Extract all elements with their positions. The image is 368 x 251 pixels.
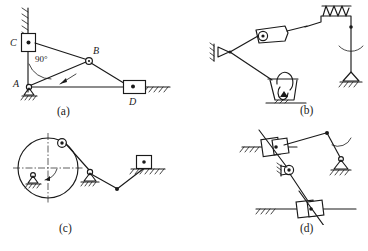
rotation-arrow bbox=[45, 169, 57, 181]
dashpot-damper bbox=[268, 72, 298, 103]
panel-c-diagram bbox=[0, 125, 184, 225]
slider-guide-ground bbox=[130, 169, 165, 174]
top-link bbox=[284, 133, 326, 145]
slider-block-D bbox=[124, 81, 146, 94]
panel-d-caption: (d) bbox=[300, 222, 313, 234]
lower-slider-block bbox=[296, 200, 324, 218]
slider-block-C bbox=[22, 34, 36, 52]
joint-label-C: C bbox=[10, 37, 17, 48]
link-top bbox=[305, 16, 351, 27]
panel-d-diagram bbox=[184, 125, 368, 225]
panel-a-caption: (a) bbox=[57, 105, 70, 117]
panel-a-diagram: C B 90° A bbox=[0, 0, 184, 110]
crank-disc bbox=[13, 133, 84, 203]
joint-label-D: D bbox=[128, 96, 137, 107]
crank-pin bbox=[58, 139, 67, 148]
fixed-pivot-left bbox=[210, 43, 232, 61]
angle-arc-90 bbox=[29, 64, 76, 84]
fixed-pivot-right bbox=[330, 157, 351, 175]
panel-c-caption: (c) bbox=[59, 222, 72, 234]
rocker-link-right bbox=[339, 25, 363, 72]
cylinder-piston bbox=[256, 26, 307, 43]
connecting-link bbox=[117, 169, 143, 189]
disc-fixed-pivot bbox=[25, 173, 41, 188]
link-pivot-to-damper bbox=[230, 52, 272, 80]
link-AB bbox=[29, 62, 86, 86]
fixed-pivot-right bbox=[339, 72, 362, 87]
link-pivot-to-cylinder bbox=[230, 36, 258, 52]
rocker-right bbox=[327, 133, 351, 159]
joint-label-B: B bbox=[93, 45, 99, 56]
link-BD bbox=[91, 63, 127, 85]
panel-b-diagram bbox=[184, 0, 368, 110]
upper-slider-block bbox=[261, 137, 289, 156]
spring-coil bbox=[322, 6, 351, 16]
slider-block bbox=[137, 156, 152, 169]
angle-label-90: 90° bbox=[35, 54, 48, 64]
middle-fixed-pivot bbox=[81, 169, 99, 186]
joint-label-A: A bbox=[12, 78, 20, 89]
panel-b-caption: (b) bbox=[300, 104, 313, 116]
figure-sheet: C B 90° A bbox=[0, 0, 368, 251]
